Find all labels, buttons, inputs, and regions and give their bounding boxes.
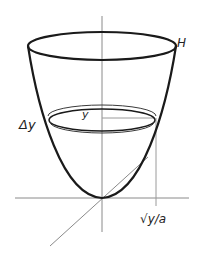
y-label: y [82,109,89,120]
height-label: H [177,37,186,49]
paraboloid-diagram [0,0,203,264]
depth-axis-diagonal [50,157,148,246]
delta-y-label: Δy [19,118,36,131]
radius-label: √y/a [140,213,166,225]
